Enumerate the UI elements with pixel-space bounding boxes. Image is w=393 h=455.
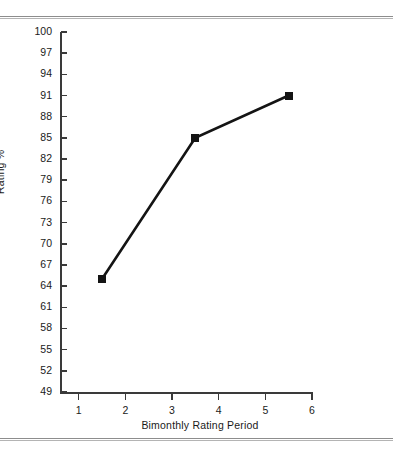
x-axis-title: Bimonthly Rating Period [60,419,340,431]
x-tick-label: 2 [110,404,140,416]
y-tick-label: 88 [24,110,52,122]
y-tick-label: 58 [24,321,52,333]
rule-line-lower [0,440,393,441]
x-axis-line [60,392,313,394]
y-tick-label: 76 [24,194,52,206]
x-tick-label: 6 [297,404,327,416]
y-tick-label: 100 [24,25,52,37]
data-point-marker [98,275,106,283]
x-tick [311,393,313,400]
y-tick-label: 85 [24,131,52,143]
plot-area: 4952555861646770737679828588919497100 12… [60,32,340,392]
x-tick-label: 1 [64,404,94,416]
series-polyline [102,96,289,280]
x-tick-label: 3 [157,404,187,416]
y-tick-label: 94 [24,67,52,79]
x-tick-label: 5 [250,404,280,416]
y-tick-label: 52 [24,364,52,376]
y-tick-label: 67 [24,258,52,270]
x-tick [78,393,80,400]
y-tick-label: 70 [24,237,52,249]
y-tick-label: 82 [24,152,52,164]
x-tick [125,393,127,400]
data-series-line [60,32,340,392]
line-chart-figure: 4952555861646770737679828588919497100 12… [0,19,393,438]
rule-line-upper [0,16,393,17]
x-tick [171,393,173,400]
y-tick-label: 61 [24,300,52,312]
data-point-marker [191,134,199,142]
y-tick-label: 64 [24,279,52,291]
y-tick-label: 73 [24,216,52,228]
y-tick-label: 49 [24,385,52,397]
y-tick-label: 91 [24,89,52,101]
x-tick [265,393,267,400]
data-point-marker [285,92,293,100]
x-tick-label: 4 [204,404,234,416]
y-tick-label: 79 [24,173,52,185]
rule-line-upper [0,438,393,439]
y-axis-title: Rating % [0,150,6,194]
y-tick-label: 97 [24,46,52,58]
page-rule-bottom [0,438,393,441]
y-tick-label: 55 [24,343,52,355]
x-tick [218,393,220,400]
